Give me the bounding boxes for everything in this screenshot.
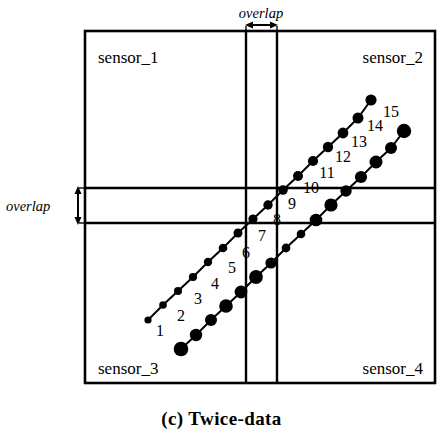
data-point-number-label: 5 [228,259,236,276]
data-point-marker [174,342,189,357]
data-point-marker [235,286,248,299]
data-point-marker [278,185,288,195]
data-point-marker [324,198,337,211]
data-point-number-label: 10 [303,179,319,196]
data-point-number-label: 3 [194,290,202,307]
data-point-number-label: 8 [273,211,281,228]
figure-caption: (c) Twice-data [0,408,443,430]
data-point-marker [189,273,197,281]
overlap-arrow-left-icon [75,186,82,225]
data-point-marker [249,270,263,284]
data-point-number-label: 9 [288,195,296,212]
data-point-marker [219,299,233,313]
data-point-marker [190,329,202,341]
data-point-marker [310,214,323,227]
data-point-number-label: 6 [242,244,250,261]
outer-frame [85,31,435,383]
data-point-marker [234,229,243,238]
data-point-marker [174,287,182,295]
data-point-number-label: 14 [367,117,383,134]
data-point-marker [365,94,376,105]
overlap-label-top: overlap [239,5,283,21]
overlap-label-left: overlap [6,198,50,214]
data-point-marker [385,142,397,154]
data-point-number-label: 13 [351,133,367,150]
data-point-marker [340,185,351,196]
data-point-marker [219,244,228,253]
data-point-marker [338,128,349,139]
data-point-marker [248,214,257,223]
data-point-number-label: 15 [383,103,399,120]
quadrant-label-sensor-4: sensor_4 [363,359,424,378]
data-point-marker [159,301,167,309]
data-point-marker [293,171,303,181]
data-point-number-label: 4 [211,275,219,292]
vertical-divider-group [246,31,277,383]
data-point-marker [263,200,272,209]
frame-group [85,31,435,383]
data-point-marker [308,156,318,166]
data-point-marker [397,124,411,138]
data-point-marker [297,230,306,239]
data-point-marker [355,171,367,183]
data-point-marker [282,244,291,253]
sensor-coverage-diagram: overlap overlap sensor_1 sensor_2 [0,0,443,444]
data-point-marker [205,314,217,326]
data-point-marker [370,156,383,169]
data-point-marker [323,142,333,152]
data-point-number-label: 7 [258,227,266,244]
figure-twice-data: overlap overlap sensor_1 sensor_2 [0,0,443,444]
data-point-marker [353,113,364,124]
data-point-number-label: 12 [335,148,351,165]
horizontal-divider-group [85,188,435,223]
quadrant-label-sensor-2: sensor_2 [363,48,423,67]
data-point-marker [144,316,151,323]
overlap-annotation-top: overlap [239,5,283,31]
quadrant-label-sensor-3: sensor_3 [98,359,158,378]
data-point-marker [265,257,276,268]
data-point-marker [204,258,212,266]
overlap-arrow-top-icon [245,22,278,29]
data-point-number-label: 2 [177,307,185,324]
quadrant-label-sensor-1: sensor_1 [98,48,158,67]
overlap-annotation-left: overlap [6,186,85,225]
data-point-number-label: 11 [319,164,334,181]
data-point-number-label: 1 [156,322,164,339]
